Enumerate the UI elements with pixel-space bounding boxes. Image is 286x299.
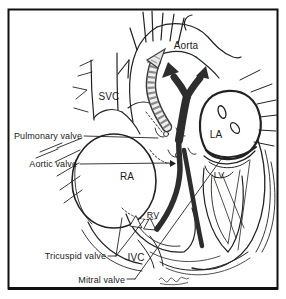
label-aorta: Aorta (174, 40, 199, 51)
label-right-atrium: RA (120, 171, 134, 182)
aortic-valve-leader-arrowhead (170, 160, 176, 167)
left-atrium-outline (200, 91, 261, 159)
label-right-ventricle: RV (147, 210, 160, 220)
label-aortic-valve: Aortic valve (29, 159, 77, 169)
label-svc: SVC (99, 91, 120, 102)
artist-signature (159, 277, 189, 285)
label-pulmonary-valve: Pulmonary valve (14, 131, 82, 141)
right-atrium-outline (72, 102, 156, 228)
aortic-flow-arrow (147, 49, 167, 127)
heart-diagram-figure: Aorta SVC Pulmonary valve Aortic valve R… (0, 0, 286, 299)
label-tricuspid-valve: Tricuspid valve (45, 251, 106, 261)
heart-diagram-canvas: Aorta SVC Pulmonary valve Aortic valve R… (0, 0, 286, 299)
label-left-atrium: LA (210, 129, 223, 140)
label-mitral-valve: Mitral valve (78, 275, 125, 285)
pulmonary-flow-arrow (157, 62, 209, 246)
label-left-ventricle: LV (214, 170, 225, 180)
aortic-valve-leader (80, 163, 170, 164)
pulmonary-valve-leader (84, 136, 158, 138)
label-ivc: IVC (128, 252, 145, 263)
